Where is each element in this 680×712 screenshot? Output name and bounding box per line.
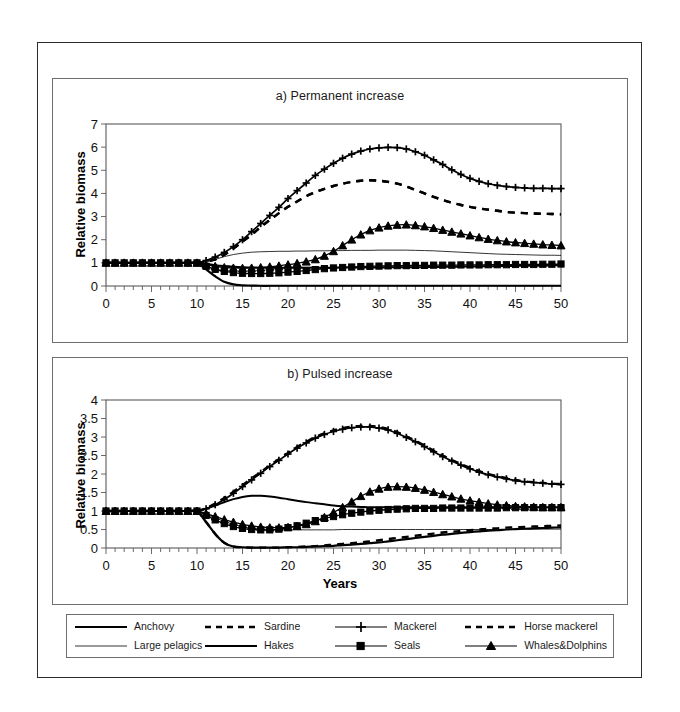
legend-item-mackerel: Mackerel xyxy=(333,621,463,633)
svg-text:6: 6 xyxy=(91,140,98,155)
legend-label-whales_dolphins: Whales&Dolphins xyxy=(524,640,607,651)
svg-text:20: 20 xyxy=(281,558,295,573)
legend-item-horse_mackerel: Horse mackerel xyxy=(463,621,607,633)
svg-text:5: 5 xyxy=(91,163,98,178)
svg-text:2: 2 xyxy=(91,232,98,247)
figure-root: a) Permanent increase Relative biomass 0… xyxy=(0,0,680,712)
chart-panel-pulsed-increase: b) Pulsed increase Relative biomass 0510… xyxy=(52,357,628,605)
svg-text:10: 10 xyxy=(190,558,204,573)
legend-swatch-whales_dolphins xyxy=(463,640,519,652)
legend-swatch-horse_mackerel xyxy=(463,621,519,633)
svg-text:20: 20 xyxy=(281,296,295,311)
svg-text:30: 30 xyxy=(372,296,386,311)
svg-text:0: 0 xyxy=(91,279,98,294)
legend-swatch-mackerel xyxy=(333,621,389,633)
svg-text:50: 50 xyxy=(554,558,568,573)
svg-text:40: 40 xyxy=(463,558,477,573)
legend-label-sardine: Sardine xyxy=(264,621,300,632)
legend-item-anchovy: Anchovy xyxy=(73,621,203,633)
legend-swatch-seals xyxy=(333,640,389,652)
svg-text:1: 1 xyxy=(91,255,98,270)
legend-label-horse_mackerel: Horse mackerel xyxy=(524,621,598,632)
panel-a-plot: 0510152025303540455001234567 xyxy=(53,79,629,344)
legend-label-seals: Seals xyxy=(394,640,420,651)
legend-label-mackerel: Mackerel xyxy=(394,621,437,632)
svg-text:4: 4 xyxy=(91,393,98,408)
svg-text:5: 5 xyxy=(148,558,155,573)
svg-text:40: 40 xyxy=(463,296,477,311)
svg-text:30: 30 xyxy=(372,558,386,573)
svg-text:25: 25 xyxy=(326,558,340,573)
svg-text:4: 4 xyxy=(91,186,98,201)
svg-text:0: 0 xyxy=(102,558,109,573)
svg-text:35: 35 xyxy=(417,296,431,311)
svg-text:5: 5 xyxy=(148,296,155,311)
svg-text:0.5: 0.5 xyxy=(80,522,98,537)
svg-text:7: 7 xyxy=(91,117,98,132)
svg-text:50: 50 xyxy=(554,296,568,311)
svg-text:0: 0 xyxy=(102,296,109,311)
svg-text:2.5: 2.5 xyxy=(80,448,98,463)
svg-text:25: 25 xyxy=(326,296,340,311)
svg-text:3: 3 xyxy=(91,430,98,445)
chart-panel-permanent-increase: a) Permanent increase Relative biomass 0… xyxy=(52,78,628,343)
legend-label-hakes: Hakes xyxy=(264,640,294,651)
svg-text:1.5: 1.5 xyxy=(80,485,98,500)
legend-grid: AnchovySardineMackerelHorse mackerelLarg… xyxy=(67,615,613,657)
panel-b-xlabel: Years xyxy=(53,576,627,591)
legend-swatch-anchovy xyxy=(73,621,129,633)
svg-text:15: 15 xyxy=(235,296,249,311)
svg-text:15: 15 xyxy=(235,558,249,573)
svg-text:1: 1 xyxy=(91,504,98,519)
legend-swatch-hakes xyxy=(203,640,259,652)
svg-text:2: 2 xyxy=(91,467,98,482)
chart-legend: AnchovySardineMackerelHorse mackerelLarg… xyxy=(66,614,614,658)
legend-item-seals: Seals xyxy=(333,640,463,652)
legend-swatch-sardine xyxy=(203,621,259,633)
legend-label-large_pelagics: Large pelagics xyxy=(134,640,202,651)
svg-text:45: 45 xyxy=(508,296,522,311)
svg-text:35: 35 xyxy=(417,558,431,573)
svg-text:3.5: 3.5 xyxy=(80,411,98,426)
legend-item-whales_dolphins: Whales&Dolphins xyxy=(463,640,607,652)
legend-item-sardine: Sardine xyxy=(203,621,333,633)
legend-item-large_pelagics: Large pelagics xyxy=(73,640,203,652)
legend-label-anchovy: Anchovy xyxy=(134,621,174,632)
svg-text:45: 45 xyxy=(508,558,522,573)
panel-b-plot: 0510152025303540455000.511.522.533.54 xyxy=(53,358,629,606)
legend-item-hakes: Hakes xyxy=(203,640,333,652)
svg-text:10: 10 xyxy=(190,296,204,311)
legend-swatch-large_pelagics xyxy=(73,640,129,652)
svg-text:3: 3 xyxy=(91,209,98,224)
svg-text:0: 0 xyxy=(91,541,98,556)
